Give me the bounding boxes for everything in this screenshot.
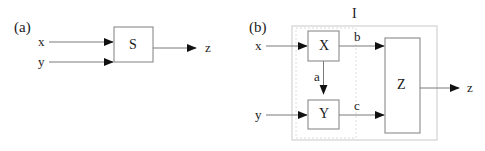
panel-b-signal-a-label: a — [314, 70, 320, 83]
panel-b-block-y-label: Y — [319, 107, 329, 121]
panel-b-block-x-label: X — [319, 39, 329, 53]
panel-b-input-y-label: y — [255, 108, 262, 121]
figure-canvas: (a) x y S z (b) I x y X Y Z a b c z — [0, 0, 485, 151]
panel-a-block-s-label: S — [129, 38, 137, 52]
panel-b-signal-c-label: c — [354, 99, 360, 112]
panel-b-block-z-label: Z — [397, 78, 406, 92]
panel-a-input-x-label: x — [38, 35, 45, 48]
panel-a-input-y-label: y — [38, 55, 45, 68]
panel-a-output-z-label: z — [205, 41, 211, 54]
panel-b-label: (b) — [249, 20, 267, 35]
panel-b-signal-b-label: b — [354, 30, 361, 43]
panel-a-label: (a) — [14, 20, 31, 35]
diagram-vector-layer — [0, 0, 485, 151]
panel-b-output-z-label: z — [467, 81, 473, 94]
panel-a-graphics — [49, 27, 196, 62]
panel-b-input-x-label: x — [255, 39, 262, 52]
panel-b-container-label: I — [352, 7, 357, 21]
panel-b-graphics — [266, 26, 459, 140]
